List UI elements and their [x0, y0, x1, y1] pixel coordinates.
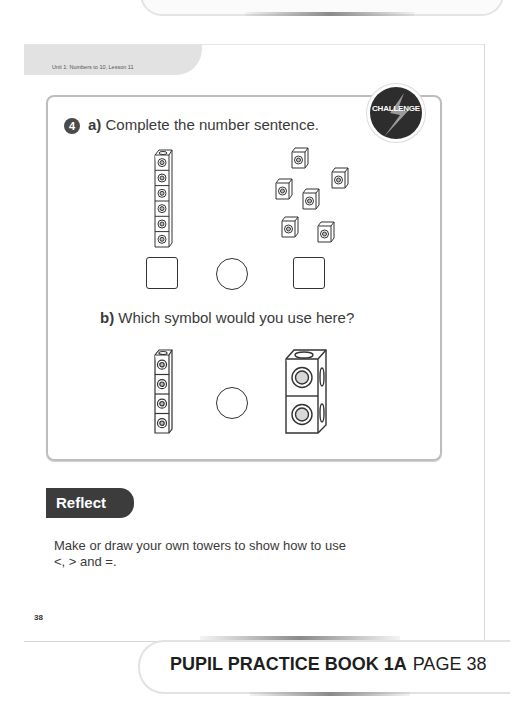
lightning-bolt-icon — [370, 87, 422, 139]
part-b-text: Which symbol would you use here? — [118, 309, 354, 326]
part-b-prompt: b) Which symbol would you use here? — [100, 309, 354, 326]
loose-cube-icon — [280, 216, 300, 238]
question-number: 4 — [64, 118, 80, 134]
reflect-heading: Reflect — [46, 488, 134, 518]
six-cube-tower-icon — [152, 149, 174, 249]
answer-box-left[interactable] — [146, 257, 178, 289]
caption-page: PAGE 38 — [413, 654, 487, 674]
unit-tab: Unit 1: Numbers to 10, Lesson 11 — [24, 45, 202, 75]
symbol-circle-a[interactable] — [216, 258, 248, 290]
decorative-shadow — [250, 692, 410, 696]
part-a-text: Complete the number sentence. — [106, 116, 319, 133]
loose-cube-icon — [290, 147, 310, 169]
loose-cube-icon — [316, 221, 336, 243]
reflect-instructions: Make or draw your own towers to show how… — [54, 538, 354, 570]
decorative-shadow — [245, 12, 415, 16]
challenge-label: CHALLENGE — [370, 104, 422, 113]
symbol-circle-b[interactable] — [216, 387, 248, 419]
unit-label: Unit 1: Numbers to 10, Lesson 11 — [52, 64, 134, 70]
book-caption: PUPIL PRACTICE BOOK 1APAGE 38 — [170, 654, 486, 675]
loose-cube-icon — [274, 178, 294, 200]
answer-box-right[interactable] — [293, 257, 325, 289]
challenge-badge: CHALLENGE — [370, 87, 422, 139]
part-b-label: b) — [100, 309, 114, 326]
caption-book: PUPIL PRACTICE BOOK 1A — [170, 654, 407, 674]
part-a-label: a) — [88, 116, 101, 133]
two-large-cube-tower-icon — [284, 349, 328, 435]
loose-cube-icon — [330, 167, 350, 189]
part-a-prompt: a) Complete the number sentence. — [88, 116, 319, 133]
four-cube-tower-icon — [152, 349, 174, 435]
challenge-question-box: 4 a) Complete the number sentence. — [46, 95, 442, 461]
loose-cube-icon — [301, 188, 321, 210]
page-number: 38 — [34, 613, 43, 622]
